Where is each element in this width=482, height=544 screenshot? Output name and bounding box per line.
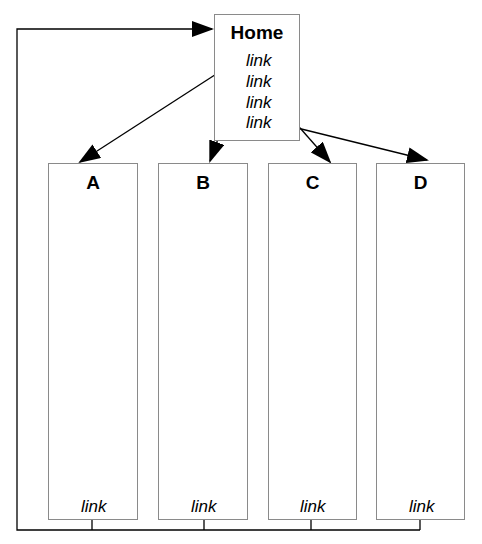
page-a-title: A	[49, 172, 137, 194]
page-a-link[interactable]: link	[81, 497, 107, 517]
home-page-box: Home link link link link	[214, 14, 300, 141]
home-link-c[interactable]: link	[246, 93, 272, 113]
page-box-a: A link	[48, 163, 138, 520]
page-d-link[interactable]: link	[409, 497, 435, 517]
page-box-d: D link	[376, 163, 465, 520]
page-b-link[interactable]: link	[191, 497, 217, 517]
page-c-link[interactable]: link	[300, 497, 326, 517]
home-title: Home	[215, 22, 299, 44]
page-box-c: C link	[268, 163, 357, 520]
home-link-d[interactable]: link	[246, 113, 272, 133]
page-c-title: C	[269, 172, 356, 194]
page-box-b: B link	[158, 163, 248, 520]
page-d-title: D	[377, 172, 464, 194]
home-link-a[interactable]: link	[246, 51, 272, 71]
home-link-b[interactable]: link	[246, 72, 272, 92]
page-b-title: B	[159, 172, 247, 194]
